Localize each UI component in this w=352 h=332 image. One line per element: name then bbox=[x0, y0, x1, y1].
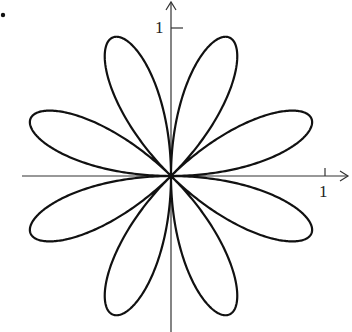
y-tick-label: 1 bbox=[155, 18, 164, 38]
bullet-dot bbox=[1, 13, 5, 17]
axes bbox=[22, 2, 348, 332]
polar-rose-plot bbox=[0, 0, 352, 332]
x-tick-label: 1 bbox=[319, 182, 328, 202]
